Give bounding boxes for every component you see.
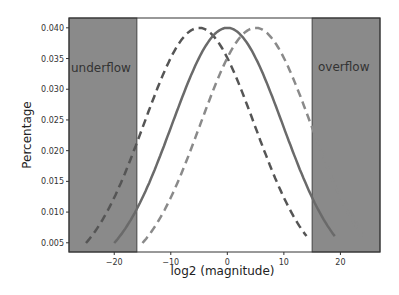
x-tick-label: 10 [279,258,289,267]
y-tick-label: 0.030 [41,85,64,94]
y-tick-label: 0.010 [41,208,64,217]
y-tick-label: 0.035 [41,55,64,64]
chart: −20−1001020 0.0050.0100.0150.0200.0250.0… [0,0,399,295]
curve-center [114,28,335,243]
underflow-label: underflow [71,61,131,75]
y-tick-label: 0.040 [41,24,64,33]
x-tick-label: −20 [106,258,123,267]
y-tick-label: 0.020 [41,147,64,156]
y-tick-label: 0.005 [41,239,64,248]
y-tick-label: 0.015 [41,177,64,186]
y-axis-label: Percentage [20,101,34,169]
y-tick-label: 0.025 [41,116,64,125]
x-axis-label: log2 (magnitude) [170,264,274,278]
overflow-label: overflow [318,60,370,74]
x-tick-label: 20 [335,258,345,267]
